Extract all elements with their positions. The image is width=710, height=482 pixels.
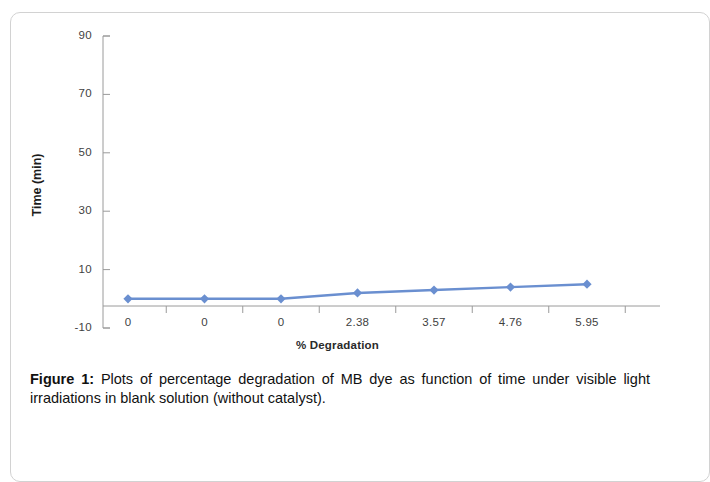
y-axis-title: Time (min) — [30, 130, 44, 240]
x-tick-marks — [166, 306, 625, 313]
figure-caption-text: Plots of percentage degradation of MB dy… — [30, 371, 650, 406]
x-tick-label: 2.38 — [328, 316, 388, 328]
data-point-marker — [200, 294, 209, 303]
figure-caption: Figure 1: Plots of percentage degradatio… — [30, 370, 650, 408]
y-tick-label: -10 — [58, 321, 92, 333]
y-tick-label: 70 — [58, 87, 92, 99]
x-tick-label: 3.57 — [404, 316, 464, 328]
chart-plot-area: 9070503010-10 0002.383.574.765.95 Time (… — [0, 0, 675, 365]
x-axis-title: % Degradation — [0, 339, 675, 351]
data-point-marker — [276, 294, 285, 303]
y-tick-label: 10 — [58, 263, 92, 275]
x-tick-label: 4.76 — [481, 316, 541, 328]
y-tick-label: 30 — [58, 204, 92, 216]
chart-svg — [0, 0, 675, 365]
x-tick-label: 0 — [98, 316, 158, 328]
data-point-marker — [353, 288, 362, 297]
y-tick-label: 90 — [58, 29, 92, 41]
x-tick-label: 0 — [175, 316, 235, 328]
data-point-marker — [429, 285, 438, 294]
figure-caption-label: Figure 1: — [30, 371, 94, 387]
y-tick-marks — [103, 36, 110, 328]
x-tick-label: 0 — [251, 316, 311, 328]
x-tick-label: 5.95 — [557, 316, 617, 328]
data-point-marker — [582, 280, 591, 289]
data-point-marker — [123, 294, 132, 303]
data-point-marker — [506, 283, 515, 292]
y-tick-label: 50 — [58, 146, 92, 158]
